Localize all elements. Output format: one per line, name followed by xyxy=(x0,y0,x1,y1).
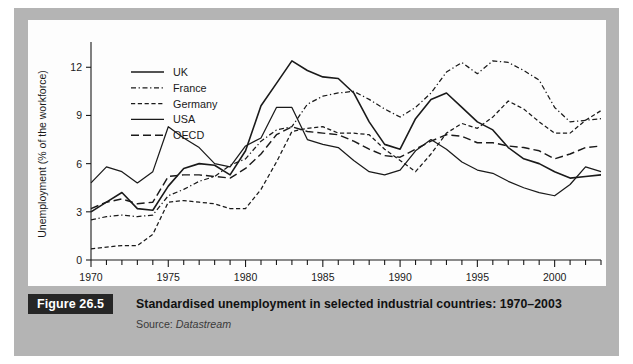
x-tick-label: 1985 xyxy=(311,271,335,283)
legend-label-france: France xyxy=(173,82,207,94)
legend-label-usa: USA xyxy=(173,113,196,125)
figure-caption: Figure 26.5 Standardised unemployment in… xyxy=(28,292,606,348)
series-line-usa xyxy=(91,107,601,195)
chart-panel: 0369121970197519801985199019952000 UKFra… xyxy=(28,20,606,286)
figure-source: Source: Datastream xyxy=(136,318,231,330)
y-axis-title: Unemployment (% of the workforce) xyxy=(36,70,48,237)
x-tick-label: 1995 xyxy=(466,271,490,283)
x-tick-label: 1990 xyxy=(388,271,412,283)
series-line-oecd xyxy=(91,127,601,209)
series-line-uk xyxy=(91,61,601,212)
y-tick-label: 0 xyxy=(76,254,82,266)
figure-title: Standardised unemployment in selected in… xyxy=(136,294,562,314)
source-prefix: Source: xyxy=(136,318,176,330)
y-tick-label: 9 xyxy=(76,109,82,121)
y-axis-title-text: Unemployment (% of the workforce) xyxy=(36,70,48,237)
figure-number-badge: Figure 26.5 xyxy=(28,294,113,314)
series-line-germany xyxy=(91,101,601,249)
source-name: Datastream xyxy=(176,318,231,330)
figure-container: 0369121970197519801985199019952000 UKFra… xyxy=(0,0,633,364)
y-tick-label: 3 xyxy=(76,206,82,218)
chart-legend: UKFranceGermanyUSAOECD xyxy=(131,66,218,141)
y-tick-label: 12 xyxy=(70,61,82,73)
x-tick-label: 1975 xyxy=(157,271,181,283)
x-tick-label: 1970 xyxy=(79,271,103,283)
y-tick-label: 6 xyxy=(76,158,82,170)
legend-label-germany: Germany xyxy=(173,98,218,110)
x-tick-label: 2000 xyxy=(543,271,567,283)
legend-label-oecd: OECD xyxy=(173,129,204,141)
legend-label-uk: UK xyxy=(173,66,189,78)
x-tick-label: 1980 xyxy=(234,271,258,283)
line-chart: 0369121970197519801985199019952000 UKFra… xyxy=(28,20,606,286)
chart-series-group xyxy=(91,61,601,249)
